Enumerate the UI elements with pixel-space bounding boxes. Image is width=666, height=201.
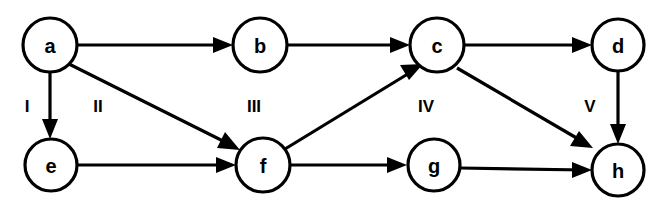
graph-canvas: a b c d e f bbox=[0, 0, 666, 201]
node-h[interactable]: h bbox=[592, 144, 644, 196]
column-label-i: I bbox=[25, 97, 30, 116]
column-label-v: V bbox=[584, 97, 596, 116]
edge-f-c bbox=[285, 64, 423, 149]
edge-a-b-arrowhead bbox=[213, 37, 233, 53]
edge-c-h bbox=[457, 68, 593, 148]
node-c[interactable]: c bbox=[410, 18, 464, 72]
node-e-label: e bbox=[45, 155, 56, 177]
edge-g-h-arrowhead bbox=[572, 162, 592, 178]
edge-g-h bbox=[460, 162, 592, 178]
edge-layer bbox=[42, 37, 626, 178]
edge-e-f-arrowhead bbox=[216, 157, 236, 173]
edge-e-f bbox=[77, 157, 236, 173]
node-g[interactable]: g bbox=[408, 139, 460, 191]
edge-c-h-arrowhead bbox=[570, 131, 593, 148]
node-f-label: f bbox=[260, 155, 267, 177]
edge-a-b bbox=[77, 37, 233, 53]
node-e[interactable]: e bbox=[25, 139, 77, 191]
column-label-ii: II bbox=[93, 97, 102, 116]
edge-b-c bbox=[287, 37, 410, 53]
node-d-label: d bbox=[612, 35, 624, 57]
column-label-iii: III bbox=[247, 97, 261, 116]
node-b[interactable]: b bbox=[233, 18, 287, 72]
edge-g-h-line bbox=[460, 168, 585, 170]
edge-c-h-line bbox=[457, 68, 580, 140]
node-a-label: a bbox=[44, 35, 56, 57]
node-f[interactable]: f bbox=[236, 138, 290, 192]
edge-a-e-arrowhead bbox=[42, 119, 58, 139]
edge-a-e bbox=[42, 72, 58, 139]
node-h-label: h bbox=[612, 160, 624, 182]
column-label-iv: IV bbox=[418, 97, 435, 116]
edge-f-c-line bbox=[285, 72, 411, 149]
node-d[interactable]: d bbox=[592, 19, 644, 71]
edge-f-g-arrowhead bbox=[387, 157, 407, 173]
edge-c-d bbox=[464, 37, 592, 53]
edge-c-d-arrowhead bbox=[572, 37, 592, 53]
node-g-label: g bbox=[428, 155, 440, 177]
edge-f-g bbox=[290, 157, 407, 173]
edge-d-h-arrowhead bbox=[610, 124, 626, 144]
graph-diagram: a b c d e f bbox=[0, 0, 666, 201]
node-c-label: c bbox=[431, 35, 442, 57]
node-a[interactable]: a bbox=[23, 18, 77, 72]
edge-b-c-arrowhead bbox=[390, 37, 410, 53]
edge-d-h bbox=[610, 71, 626, 144]
node-b-label: b bbox=[254, 35, 266, 57]
